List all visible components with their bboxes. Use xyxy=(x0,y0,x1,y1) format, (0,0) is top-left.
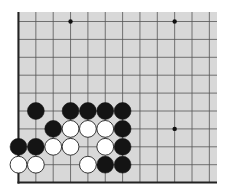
white-stone xyxy=(80,156,97,173)
black-stone xyxy=(80,103,97,120)
black-stone xyxy=(27,138,44,155)
star-point-icon xyxy=(172,19,176,23)
black-stone xyxy=(97,103,114,120)
white-stone xyxy=(45,138,62,155)
star-point-icon xyxy=(68,19,72,23)
black-stone xyxy=(45,120,62,137)
black-stone xyxy=(97,156,114,173)
black-stone xyxy=(114,103,131,120)
white-stone xyxy=(97,138,114,155)
black-stone xyxy=(62,103,79,120)
white-stone xyxy=(80,120,97,137)
board-background xyxy=(17,12,217,183)
go-board xyxy=(0,0,227,190)
black-stone xyxy=(10,138,27,155)
white-stone xyxy=(62,138,79,155)
white-stone xyxy=(62,120,79,137)
black-stone xyxy=(114,156,131,173)
white-stone xyxy=(97,120,114,137)
white-stone xyxy=(10,156,27,173)
black-stone xyxy=(114,138,131,155)
white-stone xyxy=(27,156,44,173)
star-point-icon xyxy=(172,127,176,131)
black-stone xyxy=(27,103,44,120)
black-stone xyxy=(114,120,131,137)
